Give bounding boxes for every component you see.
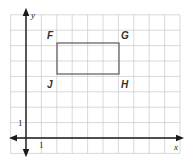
rectangle-fghj [57,43,119,74]
vertex-label-g: G [121,30,129,41]
vertex-label-j: J [47,79,53,90]
x-tick-label: 1 [39,140,44,150]
y-tick-label: 1 [18,118,23,128]
vertex-label-h: H [121,79,129,90]
x-axis-label: x [173,142,178,152]
grid-lines [11,15,180,154]
vertex-label-f: F [47,30,54,41]
coordinate-plane: y x 1 1 F G H J [0,0,185,162]
y-axis-label: y [30,10,35,20]
